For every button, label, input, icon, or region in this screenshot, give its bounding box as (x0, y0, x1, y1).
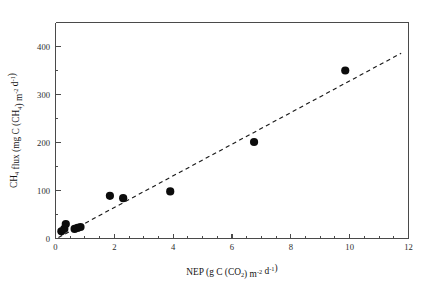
y-tick-label: 100 (37, 186, 50, 196)
axis-title-text: CH4 flux (mg C (CH4) m-2 d-1) (7, 73, 24, 188)
regression-trendline (58, 53, 401, 237)
y-tick-label: 0 (46, 234, 50, 244)
y-axis-tick-labels: 0100200300400 (37, 42, 50, 244)
x-tick-label: 6 (230, 242, 235, 252)
x-tick-label: 0 (53, 242, 57, 252)
x-axis-tick-labels: 024681012 (53, 242, 412, 252)
y-tick-label: 400 (37, 42, 50, 52)
axes-frame (56, 23, 409, 239)
y-tick-label: 300 (37, 90, 50, 100)
x-tick-label: 10 (345, 242, 354, 252)
figure-container: 024681012 0100200300400 NEP (g C (CO2) m… (0, 0, 427, 290)
axis-title-text: NEP (g C (CO2) m-2 d-1) (186, 263, 277, 280)
x-axis-title: NEP (g C (CO2) m-2 d-1) (186, 263, 277, 280)
y-axis-major-ticks (56, 47, 61, 239)
data-point (76, 223, 84, 231)
data-point (62, 220, 70, 228)
data-points (57, 66, 349, 235)
data-point (119, 194, 127, 202)
scatter-chart: 024681012 0100200300400 NEP (g C (CO2) m… (0, 0, 427, 290)
x-tick-label: 8 (289, 242, 293, 252)
y-axis-title: CH4 flux (mg C (CH4) m-2 d-1) (7, 73, 24, 188)
trendline-segment (58, 53, 401, 237)
x-tick-label: 2 (112, 242, 116, 252)
data-point (341, 66, 349, 74)
x-tick-label: 4 (171, 242, 176, 252)
x-tick-label: 12 (404, 242, 413, 252)
y-tick-label: 200 (37, 138, 50, 148)
data-point (106, 192, 114, 200)
plot-frame (56, 23, 409, 239)
data-point (250, 138, 258, 146)
data-point (166, 187, 174, 195)
x-axis-major-ticks (56, 234, 409, 239)
